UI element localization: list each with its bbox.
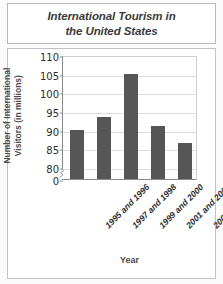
x-axis-category-labels: 1995 and 19961997 and 19981999 and 20002… — [62, 182, 197, 242]
y-axis-tick-mark — [60, 57, 63, 58]
chart-title: International Tourism in the United Stat… — [47, 9, 175, 39]
y-axis-tick-label: 90 — [46, 126, 59, 137]
y-axis-tick-label: 85 — [46, 145, 59, 156]
x-axis-label: Year — [62, 255, 197, 265]
y-axis-tick-mark — [60, 131, 63, 132]
y-axis-tick-label: 100 — [40, 89, 59, 100]
chart-title-line-2: the United States — [65, 25, 157, 37]
y-axis-tick-label: 95 — [46, 108, 59, 119]
chart-figure: International Tourism in the United Stat… — [0, 0, 223, 284]
chart-title-line-1: International Tourism in — [47, 10, 175, 22]
y-axis-label-line-2: Visitors (in millions) — [13, 75, 23, 156]
bar — [178, 143, 192, 179]
y-axis-tick-label: 80 — [46, 164, 59, 175]
chart-title-box: International Tourism in the United Stat… — [7, 3, 216, 44]
y-axis-label-line-1: Number of International — [2, 68, 12, 164]
plot-area: 110105100959085800 — [62, 56, 197, 180]
y-axis-label: Number of International Visitors (in mil… — [2, 68, 23, 164]
y-axis-label-wrap: Number of International Visitors (in mil… — [2, 50, 24, 182]
y-axis-tick-mark — [60, 94, 63, 95]
y-axis-tick-label: 110 — [40, 52, 59, 63]
bar — [97, 117, 111, 179]
axis-break-icon — [59, 170, 68, 179]
y-axis-tick-label: 105 — [40, 70, 59, 81]
bar — [70, 130, 84, 179]
y-axis-tick-mark — [60, 75, 63, 76]
y-axis-tick-mark — [60, 150, 63, 151]
y-axis-tick-mark — [60, 113, 63, 114]
bar — [124, 74, 138, 179]
bar — [151, 126, 165, 179]
